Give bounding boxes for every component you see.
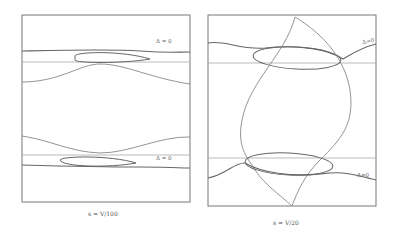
right-lower-delta-label: Δ=0 — [357, 172, 369, 178]
lower-ellipse — [60, 157, 136, 166]
upper-delta-curve — [208, 42, 376, 59]
upper-delta-curve — [22, 50, 190, 52]
left-upper-delta-label: Δ = 0 — [156, 38, 172, 44]
left-lower-delta-label: Δ = 0 — [156, 155, 172, 161]
lower-delta-curve — [22, 165, 190, 168]
left-panel-caption: s = V/100 — [88, 210, 118, 217]
trajectory-curve-right — [292, 17, 351, 206]
lower-wave-curve — [22, 136, 190, 153]
trajectory-curve-left — [241, 17, 295, 206]
upper-ellipse — [252, 45, 341, 72]
lower-delta-curve — [208, 163, 376, 180]
right-panel — [208, 15, 376, 206]
figure-canvas — [0, 0, 396, 239]
right-panel-caption: s = V/20 — [273, 219, 299, 226]
upper-ellipse — [75, 53, 150, 63]
upper-wave-curve — [22, 64, 190, 84]
